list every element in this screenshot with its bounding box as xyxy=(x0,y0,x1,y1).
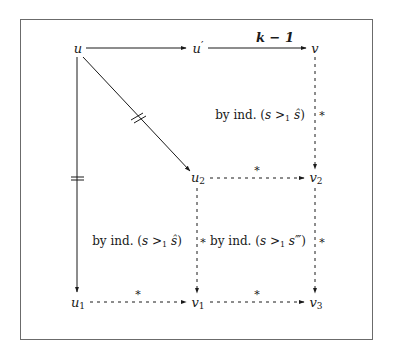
region-label-bottom-left: by ind. (s >1 ŝ) xyxy=(92,235,182,249)
node-v1: v1 xyxy=(191,296,204,311)
node-v3: v3 xyxy=(309,296,322,311)
region-lhs: s xyxy=(260,234,266,248)
star-u2-v1: * xyxy=(200,237,206,248)
region-prefix: by ind. ( xyxy=(92,234,142,248)
node-u: u xyxy=(74,42,82,55)
region-prefix: by ind. ( xyxy=(210,234,260,248)
edge-u-to-u2 xyxy=(83,57,190,171)
node-v-label: v xyxy=(311,41,318,56)
region-prefix: by ind. ( xyxy=(215,108,265,122)
node-u1-sub: 1 xyxy=(79,301,85,311)
node-v: v xyxy=(311,42,318,55)
region-suffix: ) xyxy=(300,108,305,122)
star-v-v2: * xyxy=(319,110,325,121)
star-u2-v2: * xyxy=(254,165,260,176)
node-v1-sub: 1 xyxy=(199,301,205,311)
node-v2: v2 xyxy=(309,171,322,186)
node-u-label: u xyxy=(74,41,82,56)
region-rel-sub: 1 xyxy=(285,114,290,123)
region-label-top-right: by ind. (s >1 ŝ) xyxy=(215,109,305,123)
region-rel-sub: 1 xyxy=(280,240,285,249)
node-u-prime-mark: ′ xyxy=(201,39,204,52)
region-rel: > xyxy=(270,234,280,248)
node-v2-sub: 2 xyxy=(317,176,323,186)
region-suffix: ) xyxy=(177,234,182,248)
node-v3-sub: 3 xyxy=(317,301,323,311)
node-u2-sub: 2 xyxy=(199,176,205,186)
region-rel-sub: 1 xyxy=(162,240,167,249)
region-label-bottom-right: by ind. (s >1 s‴) xyxy=(210,235,306,249)
node-u1: u1 xyxy=(71,296,85,311)
region-rhs: s‴ xyxy=(289,234,301,248)
region-rel: > xyxy=(275,108,285,122)
node-u-prime: u′ xyxy=(193,40,204,55)
star-v2-v3: * xyxy=(319,237,325,248)
region-lhs: s xyxy=(265,108,271,122)
star-u1-v1: * xyxy=(135,289,141,300)
region-lhs: s xyxy=(142,234,148,248)
node-u2: u2 xyxy=(191,171,205,186)
region-rel: > xyxy=(152,234,162,248)
edge-label-k-minus-1: k − 1 xyxy=(256,31,294,44)
star-v1-v3: * xyxy=(254,289,260,300)
region-suffix: ) xyxy=(301,234,306,248)
